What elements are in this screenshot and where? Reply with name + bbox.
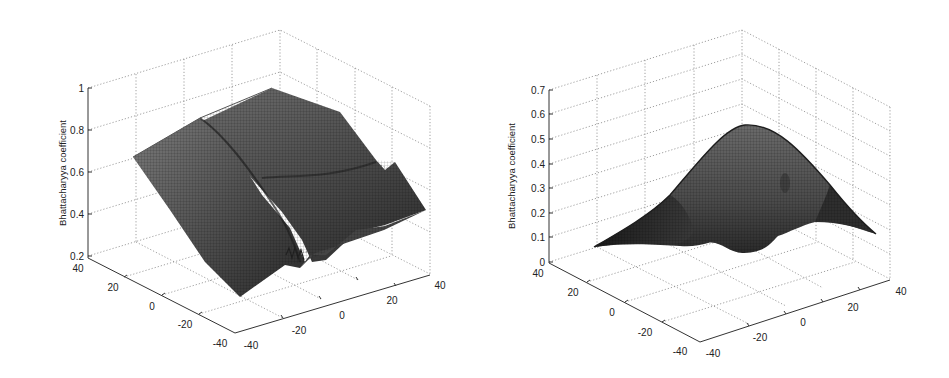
right-z-tick: 0.6 <box>531 109 545 120</box>
right-x-tick: -20 <box>753 332 768 343</box>
right-z-axis-label: Bhattacharyya coefficient <box>506 123 517 229</box>
figure: 1 0.8 0.6 0.4 0.2 Bhattacharyya coeffici… <box>0 0 949 378</box>
right-z-tick: 0.3 <box>531 183 545 194</box>
right-surface-plot: 0.7 0.6 0.5 0.4 0.3 0.2 0.1 0 Bhattachar… <box>506 30 907 359</box>
left-x-tick: 0 <box>339 310 345 321</box>
left-x-tick: -40 <box>244 340 259 351</box>
right-x-tick: 20 <box>847 302 859 313</box>
right-z-tick: 0.4 <box>531 159 545 170</box>
right-x-tick-labels: -40 -20 0 20 40 <box>706 286 907 359</box>
left-surface <box>133 88 426 297</box>
left-z-axis-label: Bhattacharyya coefficient <box>57 120 68 226</box>
left-z-tick: 0.6 <box>70 167 84 178</box>
right-x-tick: 40 <box>895 286 907 297</box>
left-y-tick-labels: 40 20 0 -20 -40 <box>72 263 227 349</box>
right-y-tick: -40 <box>673 346 688 357</box>
right-z-tick: 0.2 <box>531 208 545 219</box>
left-y-tick: -40 <box>213 338 228 349</box>
right-z-tick: 0.7 <box>531 85 545 96</box>
left-surface-plot: 1 0.8 0.6 0.4 0.2 Bhattacharyya coeffici… <box>57 30 446 351</box>
left-x-tick-labels: -40 -20 0 20 40 <box>244 280 446 351</box>
left-x-tick: 40 <box>434 280 446 291</box>
left-x-tick: 20 <box>386 295 398 306</box>
right-surface <box>594 125 876 253</box>
left-z-tick: 0.4 <box>70 209 84 220</box>
left-y-tick: 20 <box>107 282 119 293</box>
left-z-tick-labels: 1 0.8 0.6 0.4 0.2 <box>70 83 84 262</box>
left-z-tick: 0.2 <box>70 251 84 262</box>
right-y-tick: 40 <box>532 268 544 279</box>
right-z-tick: 0.1 <box>531 232 545 243</box>
left-y-tick: 40 <box>72 263 84 274</box>
left-y-tick: 0 <box>149 301 155 312</box>
right-y-tick: 20 <box>567 287 579 298</box>
left-z-tick: 0.8 <box>70 125 84 136</box>
right-x-tick: 0 <box>800 317 806 328</box>
right-z-tick-labels: 0.7 0.6 0.5 0.4 0.3 0.2 0.1 0 <box>531 85 545 268</box>
left-z-tick: 1 <box>78 83 84 94</box>
right-x-tick: -40 <box>706 348 721 359</box>
right-y-tick-labels: 40 20 0 -20 -40 <box>532 268 687 357</box>
left-y-tick: -20 <box>178 319 193 330</box>
right-y-tick: -20 <box>638 327 653 338</box>
right-y-tick: 0 <box>609 307 615 318</box>
left-x-tick: -20 <box>292 325 307 336</box>
right-z-tick: 0.5 <box>531 134 545 145</box>
right-z-tick: 0 <box>539 257 545 268</box>
